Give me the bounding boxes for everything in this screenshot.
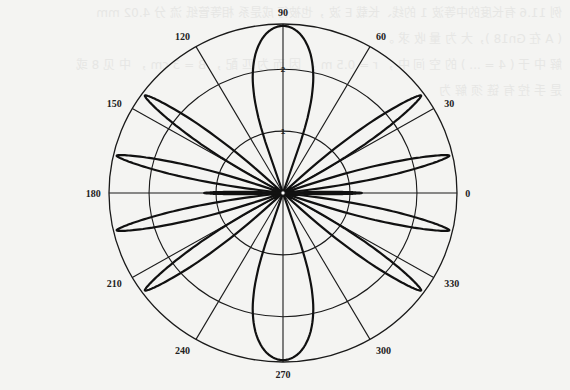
- angle-label-210: 210: [107, 278, 122, 289]
- lobe-347: [283, 193, 449, 231]
- angle-label-180: 180: [86, 188, 101, 199]
- angle-label-330: 330: [444, 278, 459, 289]
- lobe-193: [117, 193, 283, 231]
- origin-marker: [281, 191, 285, 195]
- angle-label-300: 300: [376, 345, 391, 356]
- polar-radiation-chart: 0306090120150180210240270300330 12: [0, 0, 570, 390]
- lobe-167: [117, 155, 283, 193]
- angle-label-30: 30: [444, 98, 454, 109]
- lobe-36: [283, 95, 421, 193]
- lobe-216: [145, 193, 283, 291]
- lobe-324: [283, 193, 421, 291]
- lobe-13: [283, 155, 449, 193]
- lobe-144: [145, 95, 283, 193]
- angle-label-150: 150: [107, 98, 122, 109]
- angle-label-120: 120: [175, 31, 190, 42]
- angle-label-0: 0: [465, 188, 470, 199]
- angle-label-90: 90: [278, 7, 288, 18]
- ring-label-2: 2: [281, 65, 286, 74]
- angle-label-60: 60: [376, 31, 386, 42]
- ring-label-1: 1: [281, 127, 286, 136]
- angle-label-240: 240: [175, 345, 190, 356]
- angle-label-270: 270: [276, 369, 291, 380]
